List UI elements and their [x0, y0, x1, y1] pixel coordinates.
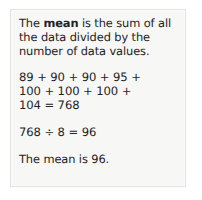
mean-definition: The mean is the sum of all the data divi…	[19, 15, 180, 59]
slide-canvas: The mean is the sum of all the data divi…	[0, 0, 202, 200]
lesson-card-content: The mean is the sum of all the data divi…	[19, 15, 180, 182]
sum-equation: 89 + 90 + 90 + 95 + 100 + 100 + 100 + 10…	[19, 59, 180, 113]
mean-conclusion: The mean is 96.	[19, 139, 180, 166]
definition-term-mean: mean	[43, 16, 78, 30]
lesson-card: The mean is the sum of all the data divi…	[10, 9, 186, 187]
definition-prefix: The	[19, 16, 43, 30]
division-equation: 768 ÷ 8 = 96	[19, 113, 180, 139]
